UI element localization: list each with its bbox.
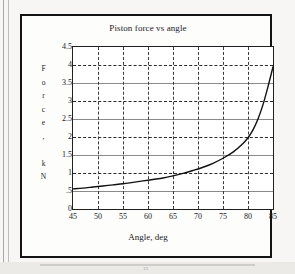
y-axis-title-letter: , [38,130,49,144]
page-number: 13 [143,266,150,271]
x-tick-label: 60 [137,212,159,222]
y-axis-title-letter: e [38,116,49,130]
y-axis-title-letter: r [38,89,49,103]
scan-artifact-line-left [3,0,4,274]
x-tick-label: 70 [187,212,209,222]
y-axis-title-letter: c [38,103,49,117]
y-axis-title-letter: F [38,62,49,76]
y-tick-label: 3 [50,97,72,105]
x-tick-label: 85 [262,212,284,222]
y-axis-title-letter [38,143,49,157]
plot-area [72,46,274,210]
y-tick-label: 2.5 [50,115,72,123]
y-axis-title-letter: k [38,157,49,171]
y-tick-label: .5 [50,187,72,195]
x-tick-label: 55 [112,212,134,222]
y-axis-title-letter: N [38,170,49,184]
scan-artifact-line-inner [8,0,9,274]
y-tick-label: 2 [50,133,72,141]
x-tick-label: 75 [212,212,234,222]
y-tick-label: 1 [50,169,72,177]
x-axis-tick-labels: 455055606570758085 [72,212,274,224]
figure-frame: Piston force vs angle Force, kN 0.511.52… [20,14,272,258]
x-axis-title: Angle, deg [22,232,274,242]
y-tick-label: 4.5 [50,43,72,51]
x-tick-label: 65 [162,212,184,222]
x-tick-label: 80 [237,212,259,222]
y-tick-label: 4 [50,61,72,69]
y-tick-label: 3.5 [50,79,72,87]
y-axis-title-letter: o [38,76,49,90]
y-tick-label: 1.5 [50,151,72,159]
y-axis-tick-labels: 0.511.522.533.544.5 [50,16,72,260]
y-axis-title: Force, kN [38,62,49,184]
piston-force-curve [73,47,273,209]
x-tick-label: 50 [87,212,109,222]
x-tick-label: 45 [62,212,84,222]
